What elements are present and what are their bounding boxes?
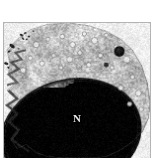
electron-micrograph-image	[4, 23, 150, 158]
micrograph-frame: N	[3, 22, 151, 158]
micrograph-figure: N	[0, 0, 156, 158]
